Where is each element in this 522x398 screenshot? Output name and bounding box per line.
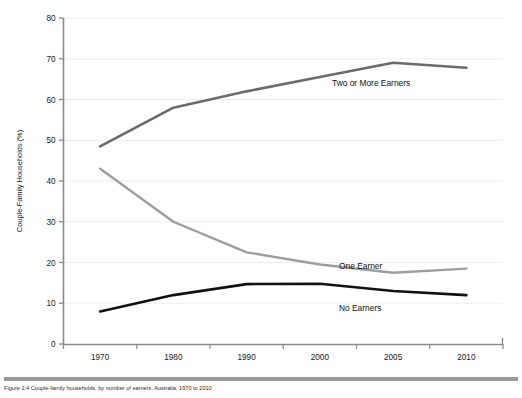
y-tick-label: 80	[46, 14, 56, 23]
figure-caption-area: Figure 2.4 Couple-family households, by …	[4, 385, 518, 398]
figure-container: 01020304050607080 1970198019902000200520…	[0, 0, 522, 398]
series-label: One Earner	[339, 261, 383, 271]
y-tick-label: 0	[51, 340, 56, 349]
series-label: Two or More Earners	[332, 78, 410, 88]
x-tick-label: 2010	[457, 353, 476, 362]
y-tick-label: 40	[46, 177, 56, 186]
line-chart: 01020304050607080 1970198019902000200520…	[0, 0, 522, 377]
y-tick-label: 30	[46, 218, 56, 227]
chart-background	[0, 0, 522, 377]
y-tick-label: 10	[46, 299, 56, 308]
y-axis-label: Couple-Family Households (%)	[15, 130, 24, 232]
y-tick-label: 70	[46, 55, 56, 64]
y-tick-label: 50	[46, 136, 56, 145]
figure-rule	[4, 377, 518, 381]
y-tick-label: 20	[46, 259, 56, 268]
x-tick-label: 2005	[384, 353, 403, 362]
series-label: No Earners	[339, 303, 381, 313]
x-tick-label: 1990	[238, 353, 257, 362]
figure-caption: Figure 2.4 Couple-family households, by …	[4, 385, 518, 392]
y-tick-label: 60	[46, 96, 56, 105]
x-tick-label: 1980	[164, 353, 183, 362]
x-tick-label: 2000	[311, 353, 330, 362]
x-tick-label: 1970	[91, 353, 110, 362]
